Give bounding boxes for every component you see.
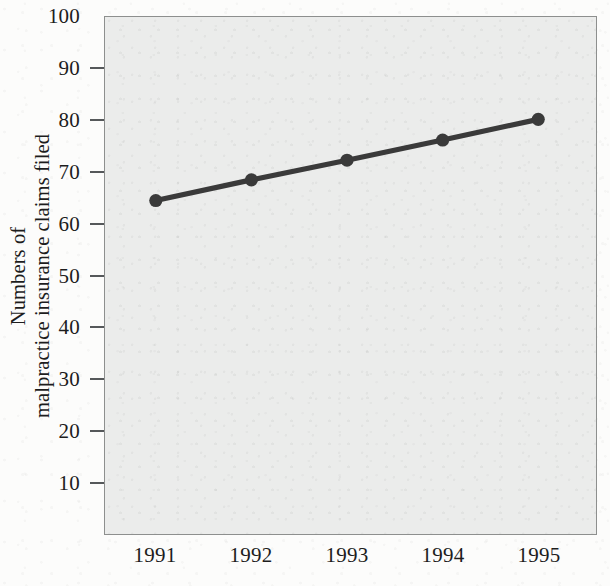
x-axis-tick-label: 1992 bbox=[207, 543, 295, 568]
data-point-1994 bbox=[436, 133, 449, 146]
y-axis-tick-mark bbox=[90, 275, 104, 277]
y-axis-tick-mark bbox=[90, 171, 104, 173]
data-point-1995 bbox=[532, 113, 545, 126]
y-axis-tick-mark bbox=[90, 223, 104, 225]
plot-area bbox=[104, 16, 597, 535]
y-axis-title-line-2-holder: malpractice insurance claims filed bbox=[30, 16, 54, 535]
y-axis-tick-mark bbox=[90, 119, 104, 121]
y-axis-tick-label: 80 bbox=[59, 106, 80, 134]
data-series-canvas bbox=[105, 17, 596, 534]
y-axis-tick-label: 60 bbox=[59, 210, 80, 238]
x-axis-tick-label: 1993 bbox=[303, 543, 391, 568]
y-axis-title-line-1: Numbers of bbox=[7, 226, 30, 324]
y-axis-tick-label: 100 bbox=[48, 2, 80, 30]
x-axis-tick-label: 1994 bbox=[399, 543, 487, 568]
x-axis-tick-label: 1995 bbox=[495, 543, 583, 568]
y-axis-tick-label: 90 bbox=[59, 54, 80, 82]
y-axis-title-line-2: malpractice insurance claims filed bbox=[31, 133, 54, 417]
y-axis-tick-label: 10 bbox=[59, 469, 80, 497]
line-chart-figure: Numbers of malpractice insurance claims … bbox=[0, 0, 610, 586]
data-point-1991 bbox=[149, 194, 162, 207]
data-point-1993 bbox=[340, 154, 353, 167]
y-axis-tick-label: 30 bbox=[59, 365, 80, 393]
y-axis-title: Numbers of malpractice insurance claims … bbox=[0, 16, 60, 535]
y-axis-tick-label: 20 bbox=[59, 417, 80, 445]
y-axis-tick-mark bbox=[90, 67, 104, 69]
y-axis-tick-mark bbox=[90, 326, 104, 328]
x-axis-tick-label: 1991 bbox=[111, 543, 199, 568]
y-axis-tick-label: 70 bbox=[59, 158, 80, 186]
y-axis-tick-mark bbox=[90, 378, 104, 380]
y-axis-tick-mark bbox=[90, 430, 104, 432]
data-point-1992 bbox=[245, 173, 258, 186]
y-axis-tick-label: 40 bbox=[59, 313, 80, 341]
y-axis-title-line-1-holder: Numbers of bbox=[6, 16, 30, 535]
y-axis-tick-label: 50 bbox=[59, 262, 80, 290]
y-axis-tick-mark bbox=[90, 482, 104, 484]
